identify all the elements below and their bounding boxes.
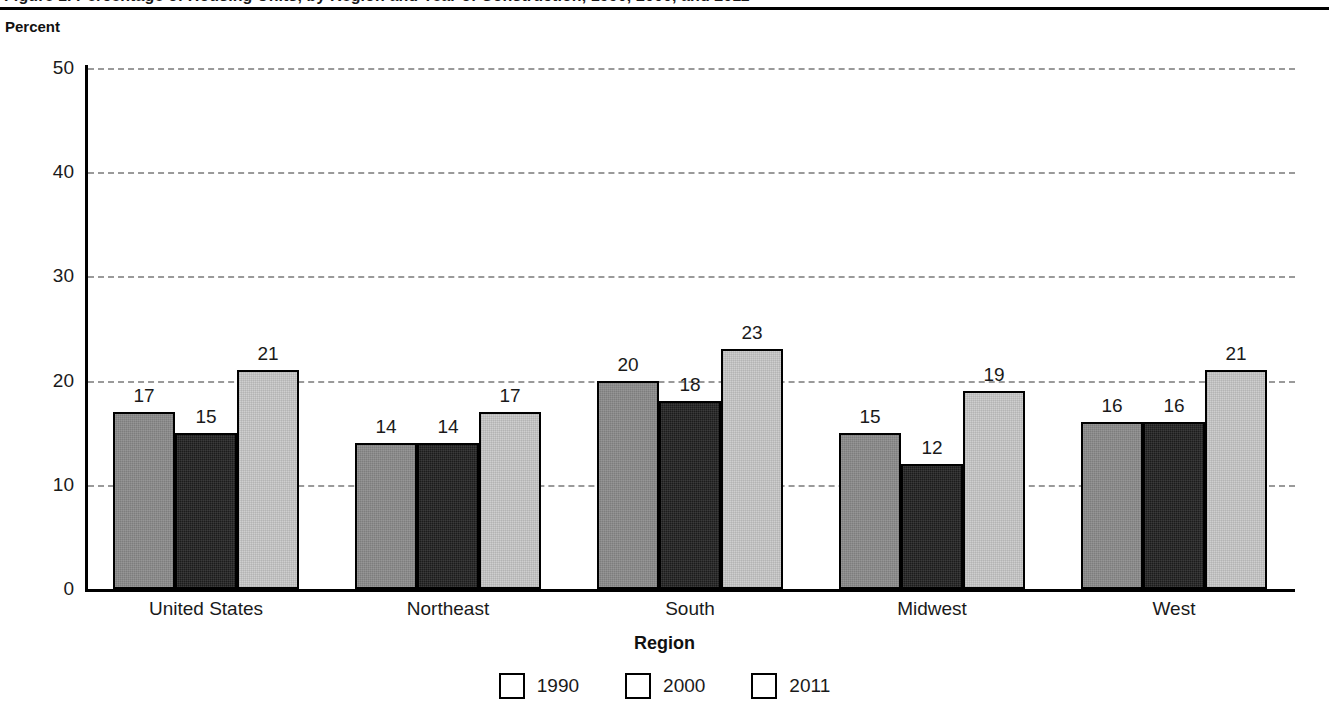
gridline-40 <box>88 172 1295 174</box>
y-tick-label: 30 <box>14 265 74 287</box>
y-tick-label: 10 <box>14 474 74 496</box>
bar <box>1081 422 1143 589</box>
legend-swatch-1990 <box>499 673 525 699</box>
header-rule <box>0 7 1329 10</box>
legend-item: 1990 <box>499 673 579 699</box>
bar-value-label: 12 <box>901 437 963 459</box>
bar <box>597 381 659 589</box>
legend-swatch-2011 <box>751 673 777 699</box>
legend-label: 2000 <box>663 675 705 697</box>
bar-value-label: 15 <box>839 406 901 428</box>
x-tick-label: Northeast <box>327 598 569 620</box>
bar <box>175 433 237 589</box>
bar <box>237 370 299 589</box>
legend-item: 2000 <box>625 673 705 699</box>
chart-legend: 199020002011 <box>0 673 1329 699</box>
bar-value-label: 17 <box>479 385 541 407</box>
bar <box>839 433 901 589</box>
x-tick-label: West <box>1053 598 1295 620</box>
x-tick-label: Midwest <box>811 598 1053 620</box>
bar-value-label: 21 <box>1205 343 1267 365</box>
bar-value-label: 15 <box>175 406 237 428</box>
y-tick-label: 0 <box>14 578 74 600</box>
bar <box>721 349 783 589</box>
legend-label: 1990 <box>537 675 579 697</box>
bar-value-label: 19 <box>963 364 1025 386</box>
legend-label: 2011 <box>789 675 830 697</box>
bar-value-label: 14 <box>355 416 417 438</box>
legend-item: 2011 <box>751 673 830 699</box>
bar-value-label: 16 <box>1143 395 1205 417</box>
y-tick-label: 20 <box>14 370 74 392</box>
y-axis-caption: Percent <box>5 18 60 35</box>
gridline-50 <box>88 68 1295 70</box>
bar <box>659 401 721 589</box>
bar-value-label: 18 <box>659 374 721 396</box>
x-tick-label: United States <box>85 598 327 620</box>
x-axis-title: Region <box>0 633 1329 654</box>
x-tick-label: South <box>569 598 811 620</box>
gridline-30 <box>88 276 1295 278</box>
bar <box>1143 422 1205 589</box>
bar <box>113 412 175 589</box>
bar <box>417 443 479 589</box>
bar-value-label: 20 <box>597 354 659 376</box>
bar <box>1205 370 1267 589</box>
bar <box>355 443 417 589</box>
bar-value-label: 23 <box>721 322 783 344</box>
legend-swatch-2000 <box>625 673 651 699</box>
bar-value-label: 14 <box>417 416 479 438</box>
figure-title-strip: Figure 1. Percentage of Housing Units, b… <box>0 0 1329 7</box>
bar-value-label: 17 <box>113 385 175 407</box>
x-axis-line <box>85 589 1295 592</box>
y-tick-label: 40 <box>14 161 74 183</box>
bar <box>901 464 963 589</box>
bar <box>963 391 1025 589</box>
bar-value-label: 16 <box>1081 395 1143 417</box>
bar <box>479 412 541 589</box>
bar-value-label: 21 <box>237 343 299 365</box>
figure-title: Figure 1. Percentage of Housing Units, b… <box>4 0 749 5</box>
y-axis-line <box>85 65 88 592</box>
chart-plot-area: 171521141417201823151219161621 <box>85 68 1295 589</box>
y-tick-label: 50 <box>14 57 74 79</box>
